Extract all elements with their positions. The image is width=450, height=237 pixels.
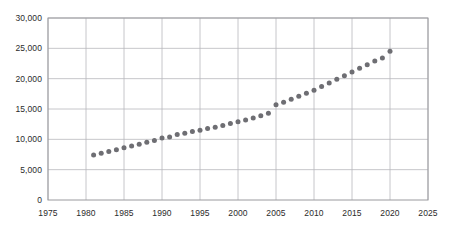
y-tick-label: 25,000 [0,43,42,53]
x-tick-label: 1975 [38,208,57,218]
x-tick-label: 2010 [304,208,323,218]
x-tick-label: 1985 [114,208,133,218]
x-tick-label: 2000 [228,208,247,218]
chart-container: 05,00010,00015,00020,00025,00030,000 197… [0,0,450,237]
x-tick-label: 2005 [266,208,285,218]
y-tick-label: 0 [0,195,42,205]
y-tick-label: 30,000 [0,13,42,23]
y-tick-label: 10,000 [0,134,42,144]
x-tick-label: 1990 [152,208,171,218]
x-tick-label: 2015 [342,208,361,218]
x-tick-label: 1980 [76,208,95,218]
y-tick-label: 20,000 [0,74,42,84]
y-tick-label: 15,000 [0,104,42,114]
x-tick-label: 2025 [418,208,437,218]
x-tick-label: 1995 [190,208,209,218]
y-tick-label: 5,000 [0,165,42,175]
x-tick-label: 2020 [380,208,399,218]
chart-plot-area [0,0,450,237]
